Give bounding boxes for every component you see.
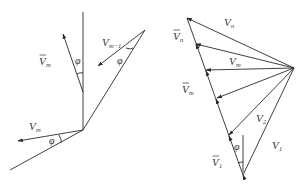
phi-label-bottom: φ	[49, 135, 55, 146]
v-2-arrow	[229, 68, 294, 135]
v-1-line	[243, 68, 294, 175]
phi-label-right: φ	[117, 55, 123, 66]
phi-label-right-diagram: φ	[234, 141, 240, 152]
svg-text:m−1: m−1	[109, 42, 121, 49]
svg-text:n: n	[231, 22, 234, 29]
svg-text:2: 2	[263, 118, 267, 125]
angle-arc-bottom	[59, 135, 61, 143]
angle-arc-top	[77, 73, 83, 74]
label-vbar-m: V m	[39, 55, 51, 68]
svg-text:m: m	[46, 61, 51, 68]
label-vbar-n: V n	[173, 30, 183, 43]
label-v-2: V 2	[256, 112, 267, 125]
right-diagram: V n V n V m V m V 2 V 1 φ V 1	[173, 16, 294, 180]
vbar-2-arrowhead	[229, 136, 231, 141]
label-v-m: V m	[29, 120, 41, 133]
label-vbar-1: V 1	[212, 156, 222, 169]
left-diagram: V m φ V m−1 φ V m φ	[10, 12, 145, 170]
label-v-n: V n	[224, 16, 234, 29]
svg-text:1: 1	[219, 162, 222, 169]
vbar-1-arrowhead	[243, 175, 245, 180]
label-v-1: V 1	[272, 139, 282, 152]
phi-label-top: φ	[75, 55, 81, 66]
label-v-m-minus-1: V m−1	[102, 36, 121, 49]
angle-arc-right	[126, 48, 133, 49]
svg-text:m: m	[236, 61, 241, 68]
fan-arrow-1	[196, 44, 294, 68]
v-m-arrow-right	[206, 68, 294, 70]
fan-arrow-3	[217, 68, 294, 98]
svg-text:m: m	[189, 89, 194, 96]
svg-text:m: m	[36, 126, 41, 133]
svg-text:n: n	[180, 36, 183, 43]
label-vbar-m-right: V m	[182, 83, 194, 96]
svg-text:1: 1	[279, 145, 282, 152]
velocity-diagram: V m φ V m−1 φ V m φ	[0, 0, 306, 188]
label-v-m-right: V m	[229, 55, 241, 68]
